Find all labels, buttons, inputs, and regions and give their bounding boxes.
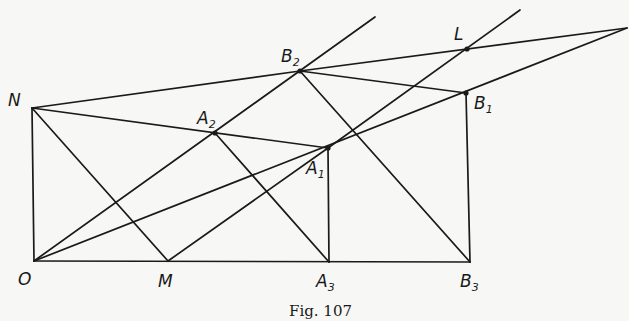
label-n: N bbox=[8, 90, 21, 110]
diagram-lines bbox=[32, 10, 627, 262]
label-b2: B2 bbox=[281, 46, 300, 69]
label-a2: A2 bbox=[196, 108, 216, 131]
label-a1: A1 bbox=[305, 158, 325, 181]
ray-0 bbox=[34, 17, 375, 261]
diagram-points bbox=[212, 46, 469, 150]
figure-caption: Fig. 107 bbox=[289, 302, 352, 320]
segment-b1-b3 bbox=[466, 93, 470, 262]
point-labels: OMA3B3NA2A1B2B1L bbox=[8, 24, 493, 294]
point-a2 bbox=[212, 130, 217, 135]
label-b3: B3 bbox=[460, 271, 479, 294]
geometry-diagram: OMA3B3NA2A1B2B1L Fig. 107 bbox=[0, 0, 629, 321]
segment-a1-a3 bbox=[328, 148, 329, 262]
point-b1 bbox=[463, 90, 468, 95]
segment-o-n bbox=[32, 108, 34, 261]
segment-o-b3 bbox=[34, 261, 470, 262]
label-l: L bbox=[454, 24, 463, 44]
label-a3: A3 bbox=[315, 271, 335, 294]
segment-n-a1 bbox=[32, 108, 328, 148]
point-l bbox=[464, 46, 469, 51]
segment-o-p bbox=[34, 28, 627, 261]
segment-b2-p bbox=[300, 28, 627, 71]
segment-n-b2 bbox=[32, 71, 300, 108]
label-o: O bbox=[18, 269, 31, 289]
label-b1: B1 bbox=[474, 93, 493, 116]
label-m: M bbox=[158, 271, 173, 291]
point-a1 bbox=[325, 145, 330, 150]
segment-m-a1 bbox=[168, 148, 328, 261]
point-b2 bbox=[297, 68, 302, 73]
segment-n-m bbox=[32, 108, 168, 261]
segment-b2-b1 bbox=[300, 71, 466, 93]
